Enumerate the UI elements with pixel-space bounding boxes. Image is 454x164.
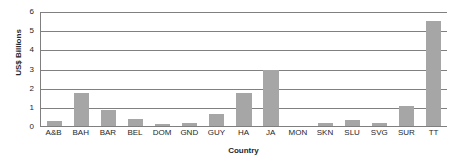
bar-slot [312,12,339,126]
y-axis-tick-labels: 0123456 [18,12,34,127]
x-axis-tick-label: SUR [393,129,420,137]
plot-area [40,12,447,127]
bar [128,119,143,126]
bar [345,120,360,126]
x-axis-tick-label: BAH [67,129,94,137]
bar [101,110,116,126]
x-axis-tick-label: JA [257,129,284,137]
bar-slot [122,12,149,126]
x-axis-tick-label: BAR [94,129,121,137]
x-axis-tick-label: MON [284,129,311,137]
bar-slot [176,12,203,126]
y-axis-tick-label: 5 [18,27,34,35]
bar-slot [393,12,420,126]
bar [74,93,89,126]
bar-slot [41,12,68,126]
x-axis-tick-label: BEL [121,129,148,137]
bar [372,123,387,126]
bar-slot [95,12,122,126]
x-axis-tick-label: SLU [339,129,366,137]
x-axis-tick-labels: A&BBAHBARBELDOMGNDGUYHAJAMONSKNSLUSVGSUR… [40,129,447,137]
bar [47,121,62,126]
y-axis-tick-label: 2 [18,85,34,93]
bar [182,123,197,126]
bar [236,93,251,126]
x-axis-tick-label: GND [176,129,203,137]
bar [155,124,170,126]
bar [426,21,441,126]
bar [263,70,278,126]
y-axis-tick-label: 3 [18,66,34,74]
bar-slot [230,12,257,126]
bar [399,106,414,126]
bar [318,123,333,126]
bar-slot [420,12,447,126]
bar-slot [339,12,366,126]
bar-series [41,12,447,126]
y-axis-tick-label: 6 [18,8,34,16]
x-axis-tick-label: DOM [149,129,176,137]
y-axis-tick-label: 4 [18,46,34,54]
bar-slot [258,12,285,126]
bar [209,114,224,126]
y-axis-tick-label: 1 [18,104,34,112]
bar-slot [68,12,95,126]
bar-slot [285,12,312,126]
bar-slot [149,12,176,126]
x-axis-tick-label: SKN [311,129,338,137]
x-axis-title: Country [40,146,447,155]
x-axis-tick-label: TT [420,129,447,137]
x-axis-tick-label: HA [230,129,257,137]
bar-chart: US$ Billions 0123456 A&BBAHBARBELDOMGNDG… [0,0,454,164]
y-axis-tick-label: 0 [18,123,34,131]
x-axis-tick-label: GUY [203,129,230,137]
bar-slot [203,12,230,126]
x-axis-tick-label: A&B [40,129,67,137]
bar-slot [366,12,393,126]
x-axis-tick-label: SVG [366,129,393,137]
